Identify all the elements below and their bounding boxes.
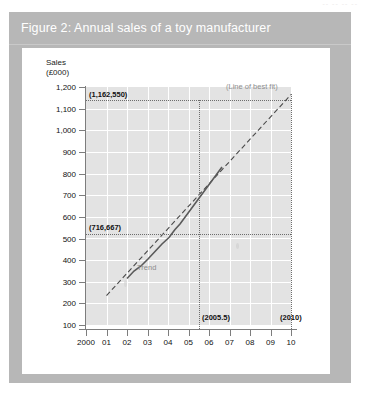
- guide-line-716667: [86, 234, 291, 235]
- annotation-2005-5: (2005.5): [202, 313, 230, 322]
- y-tick: [79, 239, 85, 240]
- annotation-2010: (2010): [280, 313, 302, 322]
- guide-line-2010: [291, 94, 292, 329]
- x-tick: [250, 330, 251, 336]
- label-trend: Trend: [137, 263, 156, 272]
- cropped-header-text: -- -- -- --: [323, 0, 358, 7]
- x-tick: [168, 330, 169, 336]
- x-axis-label: 04: [158, 338, 178, 347]
- x-tick: [148, 330, 149, 336]
- y-tick: [79, 109, 85, 110]
- y-tick: [79, 260, 85, 261]
- y-tick: [79, 217, 85, 218]
- x-tick: [107, 330, 108, 336]
- x-tick: [291, 330, 292, 336]
- y-axis-label: 400: [63, 256, 76, 265]
- title-divider: [9, 44, 351, 45]
- y-axis-label: 600: [63, 213, 76, 222]
- x-tick: [127, 330, 128, 336]
- x-axis-label: 07: [220, 338, 240, 347]
- y-tick: [79, 87, 85, 88]
- y-axis-label: 300: [63, 278, 76, 287]
- x-tick: [189, 330, 190, 336]
- figure-title: Figure 2: Annual sales of a toy manufact…: [21, 21, 271, 35]
- x-axis-label: 2000: [74, 338, 98, 347]
- annotation-716667: (716,667): [89, 223, 121, 232]
- y-axis-label: 200: [63, 299, 76, 308]
- annotation-1162550: (1,162,550): [89, 90, 127, 99]
- y-tick: [79, 130, 85, 131]
- x-tick: [86, 330, 87, 336]
- y-axis-label: 700: [63, 191, 76, 200]
- y-tick: [79, 325, 85, 326]
- x-tick: [209, 330, 210, 336]
- x-axis-label: 02: [117, 338, 137, 347]
- y-axis-label: 1,100: [56, 105, 76, 114]
- x-axis-label: 09: [261, 338, 281, 347]
- y-tick: [79, 174, 85, 175]
- x-axis-label: 08: [240, 338, 260, 347]
- x-axis-label: 05: [179, 338, 199, 347]
- y-axis-line: [85, 86, 86, 330]
- x-axis-label: 03: [138, 338, 158, 347]
- y-axis-label: 1,200: [56, 83, 76, 92]
- guide-line-1162550: [86, 100, 291, 101]
- figure-panel: Figure 2: Annual sales of a toy manufact…: [9, 12, 351, 383]
- y-tick: [79, 303, 85, 304]
- y-tick: [79, 195, 85, 196]
- x-axis-label: 06: [199, 338, 219, 347]
- y-axis-label: 900: [63, 148, 76, 157]
- y-tick: [79, 282, 85, 283]
- x-tick: [230, 330, 231, 336]
- y-axis-label: 800: [63, 170, 76, 179]
- x-axis-label: 01: [97, 338, 117, 347]
- y-tick: [79, 152, 85, 153]
- trend-line: [127, 167, 222, 279]
- y-axis-label: 500: [63, 235, 76, 244]
- page-top-strip: -- -- -- --: [0, 0, 370, 9]
- chart-card: Sales (£000): [22, 48, 330, 374]
- y-axis-label: 1,000: [56, 126, 76, 135]
- label-line-of-best-fit: (Line of best fit): [226, 82, 278, 91]
- y-axis-label: 100: [63, 321, 76, 330]
- x-tick: [271, 330, 272, 336]
- x-axis-label: 10: [281, 338, 301, 347]
- guide-line-2005-5: [199, 100, 200, 329]
